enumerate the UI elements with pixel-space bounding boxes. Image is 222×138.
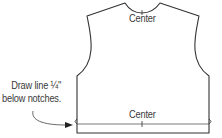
arrowhead-icon <box>65 122 73 128</box>
center-label-bottom: Center <box>129 108 156 120</box>
annotation-line-2: below notches. <box>2 92 61 105</box>
annotation-line-1: Draw line ¼" <box>2 79 61 92</box>
annotation-note: Draw line ¼" below notches. <box>2 79 61 105</box>
center-label-top: Center <box>129 12 156 24</box>
pattern-diagram <box>0 0 222 138</box>
leader-arrow-line <box>33 111 66 125</box>
